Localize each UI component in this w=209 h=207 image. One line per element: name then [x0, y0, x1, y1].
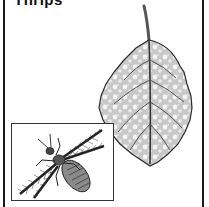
thrips-inset-box: [11, 123, 114, 201]
page-title: Thrips: [14, 0, 63, 7]
thrips-insect-illustration: [12, 124, 114, 201]
